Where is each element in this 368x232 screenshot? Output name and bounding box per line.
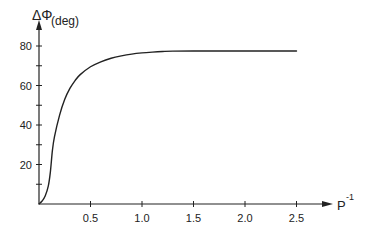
x-axis-title-base: P (337, 198, 346, 213)
x-axis-arrow-icon (322, 201, 333, 207)
x-tick-label: 1.5 (186, 212, 201, 224)
x-tick-label: 0.5 (83, 212, 98, 224)
y-tick-label: 40 (20, 119, 32, 131)
y-tick-label: 60 (20, 80, 32, 92)
y-axis-title-unit: (deg) (51, 14, 79, 28)
x-axis-title-superscript: -1 (346, 192, 354, 202)
y-tick-label: 20 (20, 159, 32, 171)
y-axis-title-symbol: ΔΦ (32, 7, 53, 23)
x-tick-label: 2.5 (289, 212, 304, 224)
y-tick-label: 80 (20, 40, 32, 52)
x-tick-label: 1.0 (134, 212, 149, 224)
x-tick-label: 2.0 (237, 212, 252, 224)
x-axis: 0.51.01.52.02.5 P -1 (39, 192, 354, 224)
data-line (39, 51, 297, 204)
chart: 20406080 ΔΦ (deg) 0.51.01.52.02.5 P -1 (0, 0, 368, 232)
